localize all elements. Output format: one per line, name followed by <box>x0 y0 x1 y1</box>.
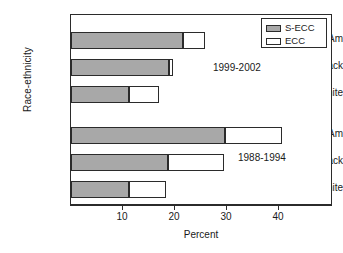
legend-swatch-icon-secc <box>266 25 281 32</box>
x-axis-tick-10 <box>122 205 123 210</box>
x-axis-tick-40 <box>278 205 279 210</box>
x-tick-label-10: 10 <box>107 211 137 222</box>
legend-item-ecc: ECC <box>266 35 326 47</box>
bar-segment-ecc <box>129 86 159 103</box>
x-tick-label-30: 30 <box>211 211 241 222</box>
bar-segment-secc <box>71 59 169 76</box>
bar-segment-ecc <box>225 127 282 144</box>
legend-label-ecc: ECC <box>285 36 305 46</box>
bar-segment-secc <box>71 154 168 171</box>
x-axis-line <box>70 205 332 206</box>
x-tick-label-40: 40 <box>263 211 293 222</box>
annotation-group-1999-2002: 1999-2002 <box>213 62 261 73</box>
x-axis-tick-20 <box>174 205 175 210</box>
bar-segment-secc <box>71 86 129 103</box>
x-axis-tick-30 <box>226 205 227 210</box>
bar-segment-ecc <box>169 59 173 76</box>
legend: S-ECC ECC <box>261 18 327 48</box>
legend-label-secc: S-ECC <box>285 23 315 33</box>
x-tick-label-20: 20 <box>159 211 189 222</box>
legend-item-secc: S-ECC <box>266 22 326 34</box>
annotation-group-1988-1994: 1988-1994 <box>238 152 286 163</box>
bar-segment-secc <box>71 32 183 49</box>
x-axis-tick-start <box>70 200 71 206</box>
bar-segment-secc <box>71 181 129 198</box>
chart-container: Race-ethnicity Mex-Am Black White Mex-Am… <box>0 0 343 253</box>
x-axis-title: Percent <box>70 229 332 240</box>
bar-segment-ecc <box>183 32 205 49</box>
y-axis-title: Race-ethnicity <box>22 5 33 155</box>
bar-segment-ecc <box>168 154 224 171</box>
bar-segment-secc <box>71 127 225 144</box>
bar-segment-ecc <box>129 181 166 198</box>
x-axis-tick-end <box>331 200 332 206</box>
legend-swatch-icon-ecc <box>266 38 281 45</box>
